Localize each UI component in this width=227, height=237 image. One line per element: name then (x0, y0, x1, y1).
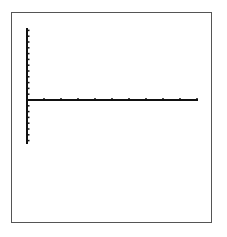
axes-plot (0, 0, 227, 237)
